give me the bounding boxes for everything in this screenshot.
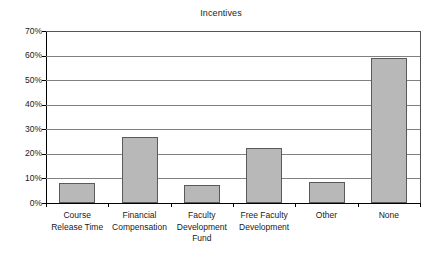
bar (59, 183, 95, 203)
y-tick-label: 30% (2, 125, 42, 134)
gridline-50% (46, 80, 420, 81)
gridline-70% (46, 31, 420, 32)
x-category-label-line: Course (46, 210, 108, 222)
x-category-label-line: Development (171, 222, 233, 234)
x-category-label: Other (295, 210, 357, 222)
y-axis-tick-labels: 0%10%20%30%40%50%60%70% (0, 31, 42, 203)
x-category-label-line: Faculty (171, 210, 233, 222)
x-category-label: Free FacultyDevelopment (233, 210, 295, 233)
gridline-20% (46, 154, 420, 155)
x-category-label-line: None (358, 210, 420, 222)
gridline-40% (46, 105, 420, 106)
x-category-label-line: Financial (108, 210, 170, 222)
gridline-60% (46, 56, 420, 57)
bar-chart: Incentives 0%10%20%30%40%50%60%70% Cours… (0, 0, 442, 265)
x-axis-category-labels: CourseRelease TimeFinancialCompensationF… (46, 210, 420, 258)
x-tick-mark (233, 203, 234, 207)
x-tick-mark (295, 203, 296, 207)
bar (122, 137, 158, 203)
y-tick-label: 40% (2, 100, 42, 109)
x-category-label: FacultyDevelopmentFund (171, 210, 233, 245)
x-category-label: FinancialCompensation (108, 210, 170, 233)
bar (371, 58, 407, 203)
x-tick-mark (420, 203, 421, 207)
x-category-label-line: Other (295, 210, 357, 222)
x-category-label: CourseRelease Time (46, 210, 108, 233)
x-category-label: None (358, 210, 420, 222)
y-tick-label: 50% (2, 76, 42, 85)
x-category-label-line: Compensation (108, 222, 170, 234)
x-category-label-line: Fund (171, 233, 233, 245)
chart-title: Incentives (0, 8, 442, 18)
x-category-label-line: Development (233, 222, 295, 234)
y-tick-label: 20% (2, 149, 42, 158)
y-tick-label: 60% (2, 51, 42, 60)
x-tick-mark (358, 203, 359, 207)
y-tick-label: 0% (2, 199, 42, 208)
bar (184, 185, 220, 203)
plot-right-frame (420, 31, 421, 204)
gridline-30% (46, 129, 420, 130)
x-axis-tick-marks (46, 203, 421, 208)
plot-area (46, 31, 420, 203)
y-tick-label: 70% (2, 27, 42, 36)
y-tick-label: 10% (2, 174, 42, 183)
x-tick-mark (171, 203, 172, 207)
bar (309, 182, 345, 203)
gridline-10% (46, 178, 420, 179)
bar (246, 148, 282, 203)
x-category-label-line: Free Faculty (233, 210, 295, 222)
x-tick-mark (46, 203, 47, 207)
x-tick-mark (108, 203, 109, 207)
x-category-label-line: Release Time (46, 222, 108, 234)
